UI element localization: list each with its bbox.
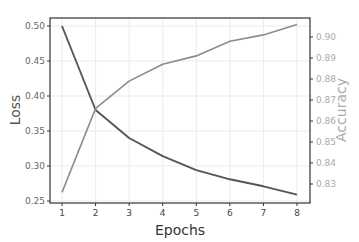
x-tick-label: 7 bbox=[261, 208, 267, 218]
y2-tick-label: 0.89 bbox=[316, 53, 336, 63]
x-axis-label: Epochs bbox=[155, 222, 205, 238]
x-tick-label: 1 bbox=[59, 208, 65, 218]
x-tick-label: 5 bbox=[193, 208, 199, 218]
x-tick-label: 6 bbox=[227, 208, 233, 218]
y-tick-label: 0.30 bbox=[25, 161, 45, 171]
left-axis-ticks: 0.250.300.350.400.450.50 bbox=[25, 21, 50, 206]
x-tick-label: 4 bbox=[160, 208, 166, 218]
y-tick-label: 0.35 bbox=[25, 126, 45, 136]
y-tick-label: 0.45 bbox=[25, 56, 45, 66]
y-tick-label: 0.25 bbox=[25, 196, 45, 206]
y-tick-label: 0.40 bbox=[25, 91, 45, 101]
y2-tick-label: 0.84 bbox=[316, 158, 336, 168]
grid-lines bbox=[50, 18, 310, 203]
y-tick-label: 0.50 bbox=[25, 21, 45, 31]
series-line-accuracy bbox=[62, 24, 297, 192]
series-lines bbox=[62, 24, 297, 194]
y-axis-label-loss: Loss bbox=[7, 95, 23, 126]
plot-frame bbox=[50, 18, 310, 203]
x-tick-label: 3 bbox=[126, 208, 132, 218]
y2-tick-label: 0.83 bbox=[316, 179, 336, 189]
loss-accuracy-chart: 0.250.300.350.400.450.50 0.830.840.850.8… bbox=[0, 0, 359, 242]
x-tick-label: 2 bbox=[93, 208, 99, 218]
series-line-loss bbox=[62, 26, 297, 195]
y2-tick-label: 0.90 bbox=[316, 32, 336, 42]
x-tick-label: 8 bbox=[294, 208, 300, 218]
y-axis-label-accuracy: Accuracy bbox=[333, 78, 349, 142]
x-axis-ticks: 12345678 bbox=[59, 203, 300, 218]
